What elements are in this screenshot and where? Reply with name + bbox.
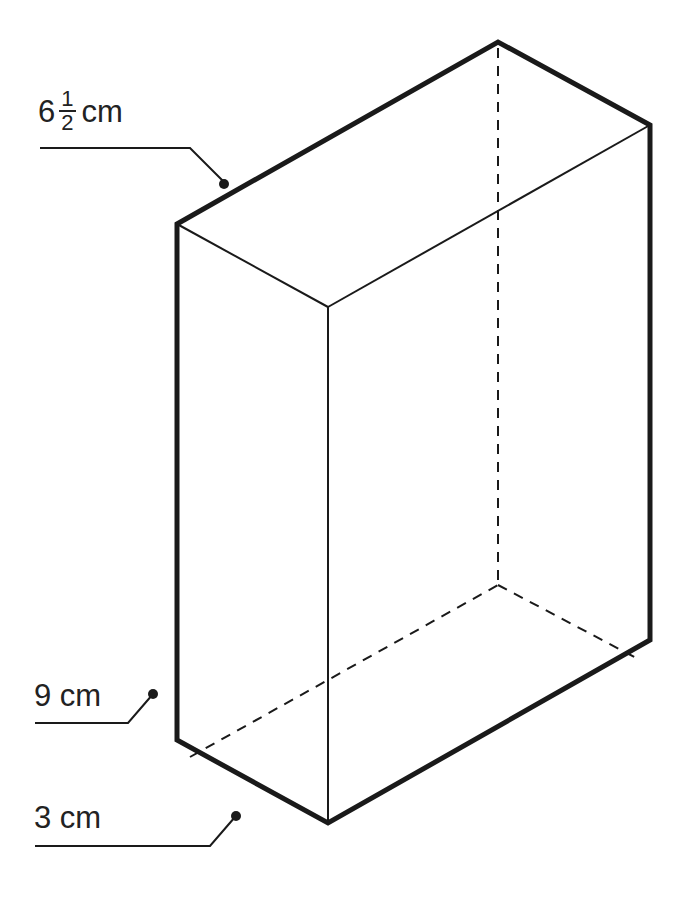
leader-dot-height: [148, 689, 158, 699]
label-length: 612cm: [38, 88, 123, 134]
leader-dot-length: [219, 179, 229, 189]
length-unit: cm: [82, 94, 123, 129]
leader-length: [40, 148, 224, 182]
edge-top-front-left: [177, 224, 328, 307]
length-whole: 6: [38, 94, 55, 129]
length-denominator: 2: [59, 112, 75, 134]
length-fraction: 12: [59, 88, 75, 134]
label-height: 9 cm: [34, 680, 101, 711]
inner-edges: [177, 125, 650, 823]
edge-top-front-right: [328, 125, 650, 307]
hidden-edge-bottom-left: [190, 585, 498, 757]
hidden-edges: [190, 48, 640, 757]
prism-diagram: [0, 0, 690, 897]
length-numerator: 1: [59, 88, 75, 112]
leader-dots: [148, 179, 241, 821]
prism-outline: [177, 42, 650, 823]
label-width: 3 cm: [34, 802, 101, 833]
leader-lines: [35, 148, 235, 846]
hidden-edge-bottom-right: [498, 585, 640, 660]
leader-dot-width: [231, 811, 241, 821]
